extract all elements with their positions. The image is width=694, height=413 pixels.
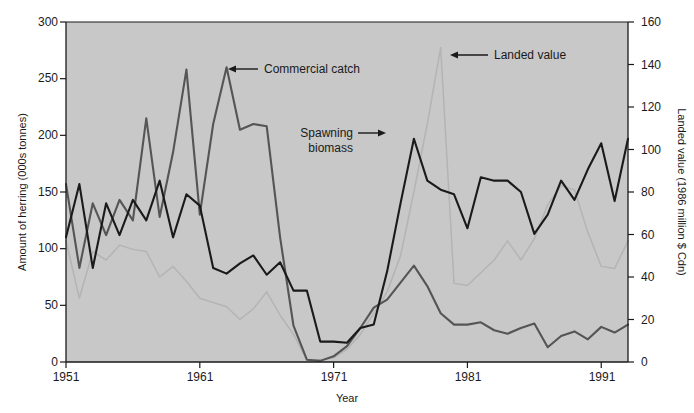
- y-axis-title: Amount of herring (000s tonnes): [16, 113, 28, 271]
- xtick-label-1951: 1951: [53, 370, 80, 384]
- y2tick-label-60: 60: [641, 228, 655, 242]
- annotation-label-landed-value: Landed value: [494, 48, 566, 62]
- y2tick-label-160: 160: [641, 15, 661, 29]
- x-tick-labels: 1951 1961 1971 1981 1991: [53, 370, 616, 384]
- ytick-label-0: 0: [51, 355, 58, 369]
- y2tick-label-100: 100: [641, 143, 661, 157]
- left-tick-labels: 300 250 200 150 100 50 0: [38, 15, 58, 369]
- ytick-label-300: 300: [38, 15, 58, 29]
- ytick-label-150: 150: [38, 185, 58, 199]
- xtick-label-1991: 1991: [589, 370, 616, 384]
- y2tick-label-140: 140: [641, 58, 661, 72]
- ytick-label-100: 100: [38, 241, 58, 255]
- annotation-label-spawning-line2: biomass: [308, 141, 353, 155]
- ytick-label-200: 200: [38, 128, 58, 142]
- xtick-label-1971: 1971: [321, 370, 348, 384]
- xtick-label-1981: 1981: [455, 370, 482, 384]
- y2tick-label-40: 40: [641, 270, 655, 284]
- y2tick-label-20: 20: [641, 313, 655, 327]
- ytick-label-50: 50: [45, 298, 59, 312]
- annotation-label-spawning-line1: Spawning: [300, 126, 353, 140]
- right-tick-labels: 160 140 120 100 80 60 40 20 0: [641, 15, 661, 369]
- annotation-label-commercial-catch: Commercial catch: [264, 62, 360, 76]
- y2tick-label-0: 0: [641, 355, 648, 369]
- x-axis-title: Year: [336, 392, 359, 404]
- y2tick-label-80: 80: [641, 185, 655, 199]
- xtick-label-1961: 1961: [187, 370, 214, 384]
- herring-chart-svg: 300 250 200 150 100 50 0 160 140 120 100…: [0, 0, 694, 413]
- y2tick-label-120: 120: [641, 100, 661, 114]
- y2-axis-title: Landed value (1986 million $ Cdn): [676, 108, 688, 276]
- chart-figure: 300 250 200 150 100 50 0 160 140 120 100…: [0, 0, 694, 413]
- ytick-label-250: 250: [38, 71, 58, 85]
